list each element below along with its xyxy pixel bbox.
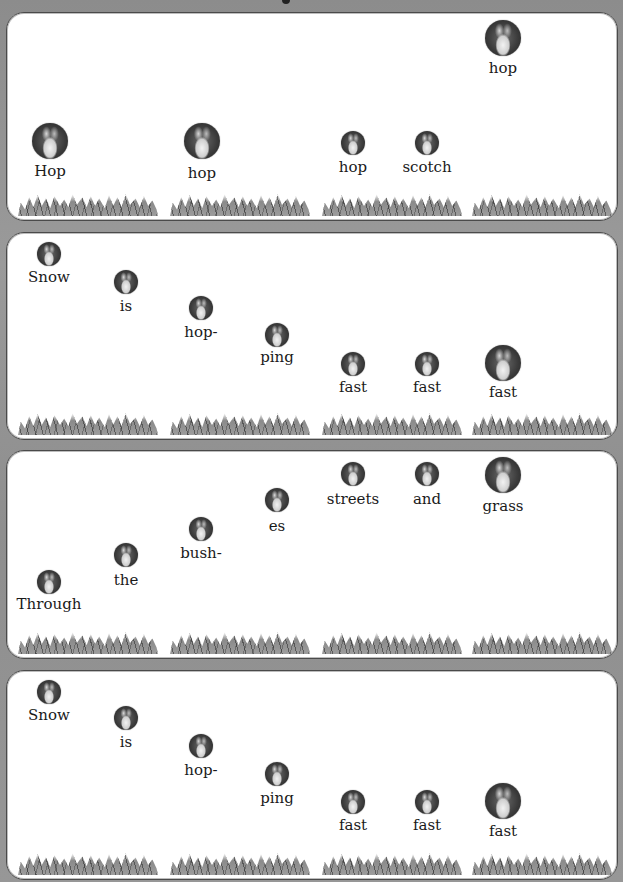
word-label: is bbox=[120, 733, 133, 751]
rabbit-portrait-icon bbox=[32, 123, 68, 159]
panel-4 bbox=[6, 670, 618, 880]
rabbit-portrait-icon bbox=[184, 123, 220, 159]
rabbit-portrait-icon bbox=[114, 543, 138, 567]
rabbit-portrait-icon bbox=[485, 20, 521, 56]
rabbit-portrait-icon bbox=[37, 680, 61, 704]
rabbit-portrait-icon bbox=[485, 783, 521, 819]
word-label: fast bbox=[413, 378, 441, 396]
rabbit-portrait-icon bbox=[341, 790, 365, 814]
word-label: fast bbox=[339, 378, 367, 396]
panel-3 bbox=[6, 450, 618, 659]
word-label: hop bbox=[188, 164, 216, 182]
word-label: is bbox=[120, 297, 133, 315]
word-label: hop- bbox=[184, 323, 217, 341]
rabbit-portrait-icon bbox=[415, 790, 439, 814]
word-label: fast bbox=[413, 816, 441, 834]
word-label: hop bbox=[489, 59, 517, 77]
word-label: the bbox=[114, 571, 139, 589]
word-label: Snow bbox=[28, 706, 70, 724]
word-label: fast bbox=[489, 383, 517, 401]
word-label: Through bbox=[17, 595, 82, 613]
rabbit-portrait-icon bbox=[341, 462, 365, 486]
rabbit-portrait-icon bbox=[114, 706, 138, 730]
word-label: ping bbox=[260, 789, 294, 807]
word-label: streets bbox=[327, 490, 379, 508]
word-label: Hop bbox=[34, 162, 66, 180]
word-label: hop- bbox=[184, 761, 217, 779]
rabbit-portrait-icon bbox=[485, 457, 521, 493]
rabbit-portrait-icon bbox=[37, 242, 61, 266]
rabbit-portrait-icon bbox=[114, 270, 138, 294]
rabbit-portrait-icon bbox=[265, 323, 289, 347]
word-label: bush- bbox=[180, 544, 222, 562]
rabbit-portrait-icon bbox=[341, 131, 365, 155]
rabbit-portrait-icon bbox=[265, 762, 289, 786]
panel-1 bbox=[6, 12, 618, 221]
top-dot bbox=[282, 0, 290, 4]
word-label: grass bbox=[482, 497, 523, 515]
word-label: hop bbox=[339, 158, 367, 176]
word-label: fast bbox=[489, 822, 517, 840]
word-label: ping bbox=[260, 348, 294, 366]
rabbit-portrait-icon bbox=[37, 570, 61, 594]
word-label: Snow bbox=[28, 268, 70, 286]
word-label: es bbox=[269, 517, 286, 535]
rabbit-portrait-icon bbox=[415, 352, 439, 376]
word-label: fast bbox=[339, 816, 367, 834]
rabbit-portrait-icon bbox=[189, 296, 213, 320]
rabbit-portrait-icon bbox=[189, 734, 213, 758]
rabbit-portrait-icon bbox=[415, 462, 439, 486]
rabbit-portrait-icon bbox=[485, 345, 521, 381]
rabbit-portrait-icon bbox=[415, 131, 439, 155]
rabbit-portrait-icon bbox=[265, 488, 289, 512]
word-label: scotch bbox=[402, 158, 451, 176]
rabbit-portrait-icon bbox=[189, 517, 213, 541]
word-label: and bbox=[413, 490, 441, 508]
rabbit-portrait-icon bbox=[341, 352, 365, 376]
panel-2 bbox=[6, 232, 618, 440]
